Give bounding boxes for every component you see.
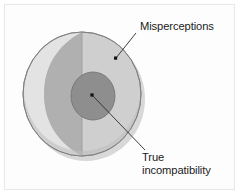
label-misperceptions: Misperceptions xyxy=(140,20,214,33)
leader-dot-misperceptions xyxy=(114,57,117,60)
label-true-incompatibility: True incompatibility xyxy=(142,151,211,176)
figure-page: Misperceptions True incompatibility xyxy=(0,0,240,195)
leader-dot-true-incompatibility xyxy=(90,93,93,96)
